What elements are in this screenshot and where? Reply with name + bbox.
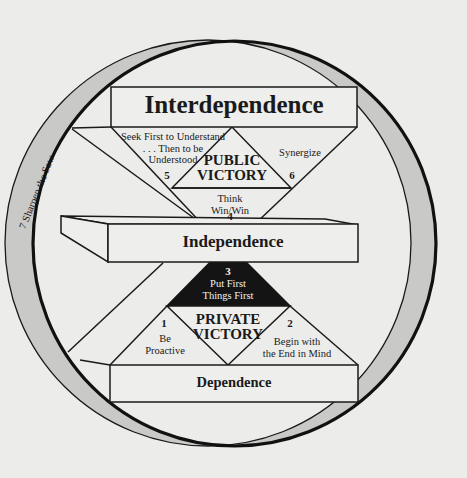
habit-3-text: Put First Things First [195,278,261,301]
habit-2-text: Begin with the End in Mind [252,336,342,359]
habit-1-text: Be Proactive [135,333,195,356]
habit-4-number: 4 [223,211,237,223]
habit-3-line1: Put First [195,278,261,290]
habit-1-line2: Proactive [135,345,195,357]
habit-2-line2: the End in Mind [252,348,342,360]
habit-5-line2: . . . Then to be [118,143,228,155]
habit-3-number: 3 [221,266,235,278]
habit-2-line1: Begin with [252,336,342,348]
habit-5-line3: Understood [118,154,228,166]
habit-1-line1: Be [135,333,195,345]
level-independence: Independence [108,233,358,251]
habit-1-number: 1 [157,318,171,330]
habit-4-line1: Think [200,193,260,205]
habit-5-text: Seek First to Understand . . . Then to b… [118,131,228,166]
seven-habits-diagram: Interdependence Independence Dependence … [0,0,467,478]
habit-5-number: 5 [160,170,174,182]
habit-2-number: 2 [283,318,297,330]
level-interdependence: Interdependence [111,92,357,118]
level-dependence: Dependence [110,375,358,390]
habit-6-number: 6 [285,170,299,182]
public-victory-line2: VICTORY [186,168,278,183]
habit-3-line2: Things First [195,290,261,302]
habit-6-text: Synergize [270,147,330,159]
habit-5-line1: Seek First to Understand [118,131,228,143]
private-victory-line1: PRIVATE [182,312,274,327]
